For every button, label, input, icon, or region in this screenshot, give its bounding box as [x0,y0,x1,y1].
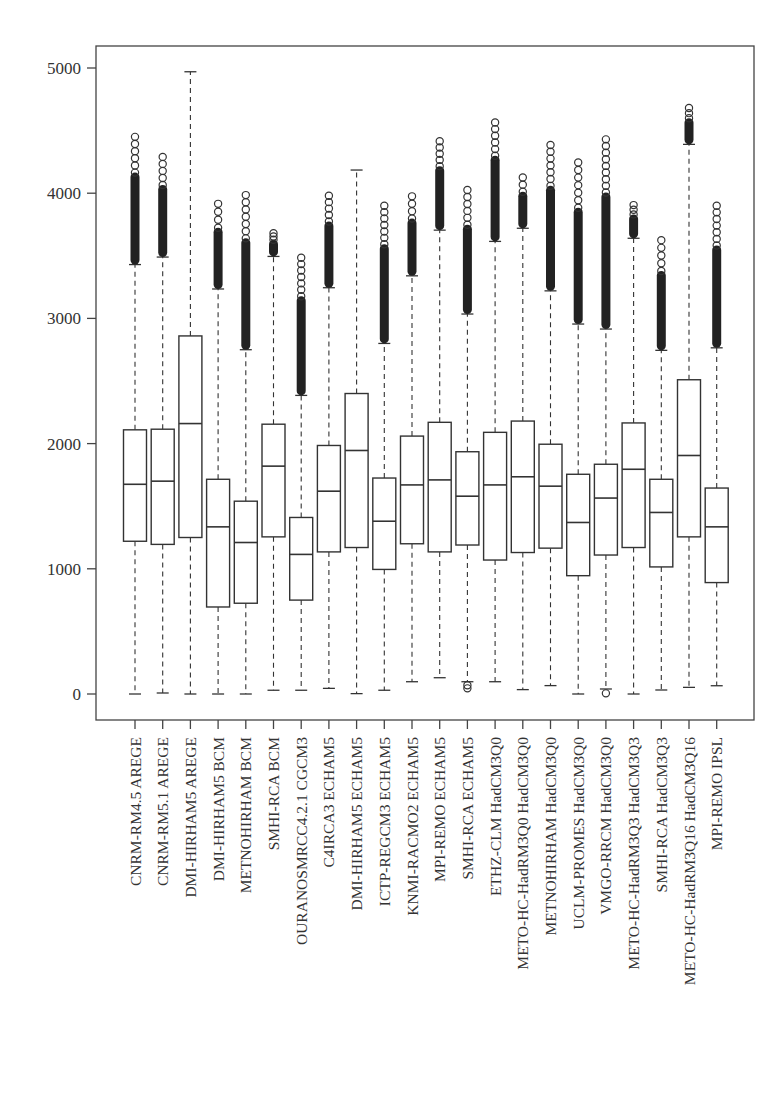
outlier-point [408,193,415,200]
iqr-box [539,444,562,548]
box-0 [124,133,147,694]
iqr-box [345,394,368,548]
outlier-point [464,186,471,193]
iqr-box [567,474,590,575]
y-axis: 010002000300040005000 [47,59,96,704]
outlier-point [519,174,526,181]
x-tick-label: METO-HC-HadRM3Q16 HadCM3Q16 [681,737,698,985]
box-11 [428,138,451,678]
outlier-point [575,166,582,173]
x-tick-label: SMHI-RCA HadCM3Q3 [653,737,670,893]
outliers-high [380,202,389,343]
outlier-point [547,162,554,169]
box-10 [401,193,424,682]
iqr-box [705,488,728,583]
outlier-point [658,252,665,259]
outlier-point [242,228,249,235]
box-4 [234,191,257,694]
outlier-point [602,690,609,697]
box-6 [290,254,313,690]
outlier-cluster [158,185,167,257]
outlier-point [464,200,471,207]
boxplot-chart: 010002000300040005000 CNRM-RM4.5 AREGECN… [0,0,774,1105]
x-tick-label: DMI-HIRHAM5 BCM [210,737,227,881]
x-tick-label: SMHI-RCA BCM [265,737,282,850]
outliers-high [657,237,666,351]
iqr-box [207,479,230,607]
x-tick-label: METO-HC-HadRM3Q0 HadCM3Q0 [514,737,531,970]
outlier-point [575,189,582,196]
y-tick-label: 5000 [47,59,81,78]
x-axis: CNRM-RM4.5 AREGECNRM-RM5.1 AREGEDMI-HIRH… [127,720,726,985]
iqr-box [650,479,673,567]
outlier-point [547,155,554,162]
iqr-box [484,432,507,560]
outlier-point [131,140,138,147]
iqr-box [622,423,645,548]
iqr-box [401,436,424,544]
iqr-box [234,501,257,603]
iqr-box [317,445,340,551]
outlier-cluster [380,244,389,343]
outliers-high [241,191,250,349]
iqr-box [151,429,174,544]
x-tick-label: CNRM-RM5.1 AREGE [154,737,171,886]
outlier-point [575,174,582,181]
outlier-point [159,167,166,174]
outlier-point [131,162,138,169]
outlier-point [547,141,554,148]
outlier-cluster [463,225,472,314]
outliers-high [491,119,500,242]
box-18 [622,201,645,694]
x-tick-label: METNOHIRHAM BCM [237,737,254,894]
outlier-cluster [546,186,555,291]
x-tick-label: ICTP-REGCM3 ECHAM5 [376,737,393,906]
x-tick-label: DMI-HIRHAM5 AREGE [182,737,199,898]
x-tick-label: METO-HC-HadRM3Q3 HadCM3Q3 [625,737,642,970]
box-16 [567,159,590,694]
outliers-high [324,192,333,288]
outlier-cluster [712,246,721,348]
iqr-box [456,452,479,545]
outliers-high [601,136,610,329]
iqr-box [290,517,313,600]
outlier-point [658,260,665,267]
outlier-point [575,159,582,166]
outlier-point [464,207,471,214]
outlier-cluster [574,208,583,324]
outliers-high [269,230,278,257]
y-tick-label: 2000 [47,435,81,454]
box-20 [678,104,701,687]
outliers-high [518,174,527,228]
box-13 [484,119,507,682]
outliers-high [463,186,472,314]
iqr-box [428,422,451,552]
y-tick-label: 4000 [47,184,81,203]
outliers-high [574,159,583,324]
box-8 [345,170,368,694]
outlier-point [159,153,166,160]
outliers-high [685,104,694,144]
iqr-box [179,336,202,538]
iqr-box [373,478,396,569]
outlier-point [242,199,249,206]
box-14 [511,174,534,690]
outliers-high [546,141,555,290]
outlier-cluster [518,192,527,229]
outlier-cluster [297,296,306,395]
outlier-point [131,133,138,140]
outlier-point [575,182,582,189]
box-3 [207,200,230,694]
iqr-box [678,380,701,537]
y-tick-label: 0 [73,685,82,704]
box-15 [539,141,562,685]
outlier-point [408,208,415,215]
outlier-cluster [214,228,223,289]
iqr-box [124,430,147,541]
outlier-cluster [324,221,333,287]
outlier-cluster [601,192,610,329]
outlier-point [658,244,665,251]
x-tick-label: CNRM-RM4.5 AREGE [127,737,144,886]
x-tick-label: METNOHIRHAM HadCM3Q0 [542,737,559,936]
outlier-point [242,191,249,198]
